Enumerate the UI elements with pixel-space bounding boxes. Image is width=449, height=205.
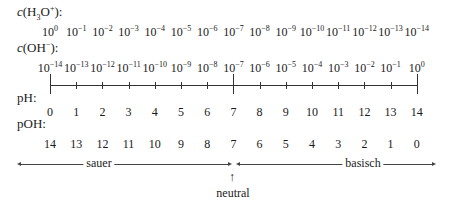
- ph-value: 6: [204, 105, 210, 120]
- power-exponent: −1: [78, 24, 87, 33]
- ph-tick: [207, 82, 208, 89]
- h3o-value: 10−11: [326, 24, 350, 40]
- power-exponent: −2: [366, 60, 375, 69]
- power-exponent: −5: [183, 24, 192, 33]
- power-base: 10: [352, 25, 364, 39]
- power-base: 10: [92, 25, 104, 39]
- power-base: 10: [249, 61, 261, 75]
- power-exponent: −3: [130, 24, 139, 33]
- ph-tick: [391, 82, 392, 89]
- power-base: 10: [143, 61, 155, 75]
- h3o-value: 10−6: [197, 24, 218, 40]
- h3o-value: 10−13: [378, 24, 403, 40]
- oh-concentration-label: c(OH−):: [17, 40, 58, 56]
- power-base: 10: [197, 61, 209, 75]
- power-base: 10: [118, 25, 130, 39]
- h3o-value: 10−5: [171, 24, 192, 40]
- power-base: 10: [409, 61, 421, 75]
- poh-value: 12: [96, 137, 108, 152]
- h3o-value: 100: [42, 24, 58, 40]
- formula-part: (OH: [23, 40, 46, 55]
- ph-value: 14: [411, 105, 423, 120]
- basisch-label: basisch: [342, 156, 383, 171]
- power-exponent: 0: [54, 24, 58, 33]
- ph-tick: [181, 82, 182, 89]
- power-exponent: −14: [417, 24, 430, 33]
- power-base: 10: [223, 61, 235, 75]
- ph-value: 2: [99, 105, 105, 120]
- power-exponent: −13: [76, 60, 89, 69]
- power-base: 10: [378, 25, 390, 39]
- oh-value: 10−2: [354, 60, 375, 76]
- oh-value: 10−3: [328, 60, 349, 76]
- ph-value: 13: [385, 105, 397, 120]
- power-base: 10: [380, 61, 392, 75]
- ph-tick: [364, 82, 365, 89]
- ph-value: 8: [257, 105, 263, 120]
- poh-label: pOH:: [17, 116, 46, 132]
- power-exponent: −10: [312, 24, 325, 33]
- power-exponent: −10: [155, 60, 168, 69]
- power-exponent: −14: [50, 60, 63, 69]
- power-exponent: −6: [261, 60, 270, 69]
- power-base: 10: [354, 61, 366, 75]
- sauer-line: [20, 164, 229, 165]
- basisch-line: [239, 164, 432, 165]
- ph-value: 11: [332, 105, 344, 120]
- h3o-concentration-label: c(H3O+):: [17, 4, 62, 22]
- power-exponent: −1: [392, 60, 401, 69]
- formula-part: O: [41, 4, 50, 19]
- formula-part: ):: [54, 4, 62, 19]
- ph-value: 3: [126, 105, 132, 120]
- ph-value: 9: [283, 105, 289, 120]
- power-exponent: −8: [261, 24, 270, 33]
- power-base: 10: [405, 25, 417, 39]
- oh-value: 10−9: [171, 60, 192, 76]
- power-exponent: −9: [288, 24, 297, 33]
- power-exponent: −13: [390, 24, 403, 33]
- ph-tick: [286, 82, 287, 89]
- power-base: 10: [300, 25, 312, 39]
- power-base: 10: [145, 25, 157, 39]
- power-base: 10: [197, 25, 209, 39]
- poh-value: 6: [257, 137, 263, 152]
- poh-value: 2: [361, 137, 367, 152]
- ph-value: 12: [358, 105, 370, 120]
- oh-value: 10−11: [116, 60, 140, 76]
- poh-value: 14: [44, 137, 56, 152]
- power-base: 10: [38, 61, 50, 75]
- power-base: 10: [249, 25, 261, 39]
- oh-value: 10−13: [64, 60, 89, 76]
- power-base: 10: [171, 61, 183, 75]
- ph-tick: [338, 82, 339, 89]
- power-exponent: −11: [338, 24, 350, 33]
- ph-value: 4: [152, 105, 158, 120]
- power-base: 10: [90, 61, 102, 75]
- power-base: 10: [171, 25, 183, 39]
- poh-value: 4: [309, 137, 315, 152]
- oh-value: 10−10: [143, 60, 168, 76]
- ph-value: 0: [47, 105, 53, 120]
- power-exponent: −4: [157, 24, 166, 33]
- h3o-value: 10−3: [118, 24, 139, 40]
- poh-value: 10: [149, 137, 161, 152]
- power-base: 10: [223, 25, 235, 39]
- poh-value: 0: [414, 137, 420, 152]
- formula-part: (H: [23, 4, 37, 19]
- h3o-value: 10−10: [300, 24, 325, 40]
- power-base: 10: [276, 25, 288, 39]
- ph-value: 1: [73, 105, 79, 120]
- power-base: 10: [302, 61, 314, 75]
- h3o-value: 10−9: [276, 24, 297, 40]
- power-exponent: −8: [209, 60, 218, 69]
- ph-tick: [233, 74, 234, 94]
- poh-value: 13: [70, 137, 82, 152]
- power-exponent: −12: [364, 24, 377, 33]
- neutral-label: neutral: [216, 186, 249, 201]
- power-exponent: −2: [104, 24, 113, 33]
- h3o-value: 10−1: [66, 24, 87, 40]
- ph-tick: [417, 74, 418, 94]
- oh-value: 10−1: [380, 60, 401, 76]
- power-base: 10: [64, 61, 76, 75]
- ph-value: 5: [178, 105, 184, 120]
